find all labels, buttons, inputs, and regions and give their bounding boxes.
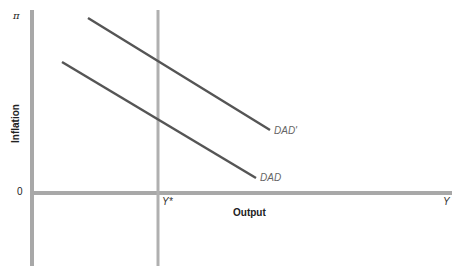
chart-canvas — [0, 0, 457, 266]
dad-label: DAD — [260, 172, 281, 183]
dad-prime-label: DAD' — [274, 125, 297, 136]
ystar-tick-label: Y* — [162, 196, 173, 207]
dad-prime-curve — [88, 18, 270, 130]
y-axis-zero-tick: 0 — [17, 186, 23, 197]
y-axis-pi-label: π — [13, 10, 20, 21]
y-axis-title: Inflation — [10, 99, 21, 149]
x-axis-title: Output — [233, 207, 266, 218]
x-axis-y-label: Y — [443, 196, 450, 207]
